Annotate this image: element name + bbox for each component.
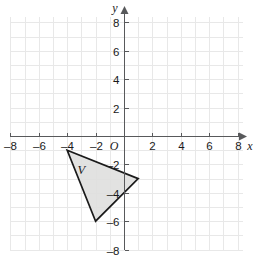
x-tick-label: 8 xyxy=(235,140,241,152)
y-tick-label: 2 xyxy=(113,103,119,115)
y-tick-label: –4 xyxy=(107,188,120,200)
plotted-shapes: V xyxy=(67,150,138,221)
coordinate-plane-figure: V –8–6–4–224688642–2–4–6–8 Oyx xyxy=(0,0,254,258)
y-axis-arrow xyxy=(121,6,129,14)
x-tick-label: –2 xyxy=(90,140,103,152)
triangle-v xyxy=(67,150,138,221)
x-tick-label: –6 xyxy=(33,140,46,152)
x-tick-label: –4 xyxy=(61,140,74,152)
origin-label: O xyxy=(110,139,119,153)
y-tick-label: –2 xyxy=(107,159,120,171)
y-tick-label: 8 xyxy=(113,17,119,29)
x-axis-name: x xyxy=(246,139,253,153)
shape-label-v: V xyxy=(78,163,87,177)
x-tick-label: 4 xyxy=(178,140,185,152)
y-tick-label: 4 xyxy=(113,74,120,86)
x-tick-label: 2 xyxy=(149,140,155,152)
y-axis-name: y xyxy=(111,1,118,15)
axes xyxy=(10,6,247,250)
x-tick-label: –8 xyxy=(4,140,17,152)
y-tick-label: –8 xyxy=(107,245,120,257)
y-tick-label: –6 xyxy=(107,216,120,228)
x-tick-label: 6 xyxy=(206,140,212,152)
y-tick-label: 6 xyxy=(113,46,119,58)
coordinate-plane-svg: V –8–6–4–224688642–2–4–6–8 Oyx xyxy=(0,0,254,258)
